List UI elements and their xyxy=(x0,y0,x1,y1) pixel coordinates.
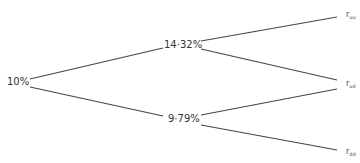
edge-up-uu xyxy=(201,17,337,41)
node-dd-sub: dd xyxy=(349,151,355,157)
node-ud: rud xyxy=(346,79,356,91)
node-root: 10% xyxy=(7,76,29,88)
edge-down-ud xyxy=(201,89,337,115)
edge-down-dd xyxy=(201,125,337,150)
edge-up-ud xyxy=(201,49,337,80)
tree-edges xyxy=(0,0,360,163)
node-up: 14·32% xyxy=(164,39,202,51)
edge-root-up xyxy=(30,48,163,79)
node-ud-sub: ud xyxy=(349,83,355,89)
edge-root-down xyxy=(30,87,163,116)
node-uu-sub: uu xyxy=(349,14,355,20)
node-down: 9·79% xyxy=(168,113,200,125)
node-uu: ruu xyxy=(346,10,356,22)
node-dd: rdd xyxy=(346,147,356,159)
